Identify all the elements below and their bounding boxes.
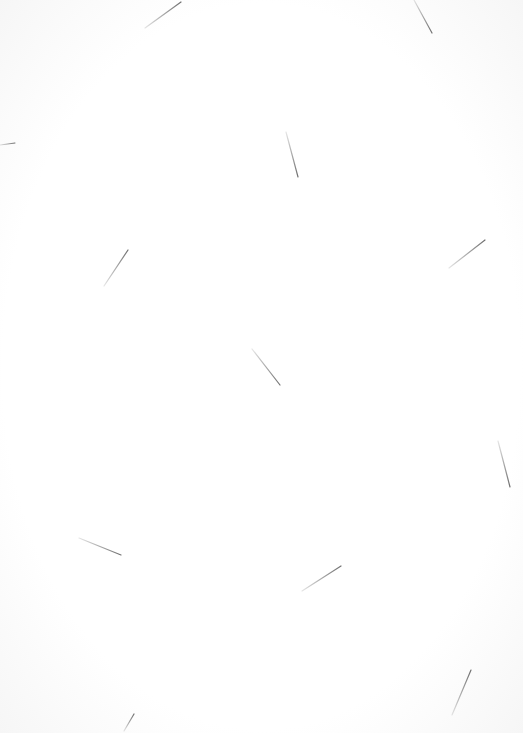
scratch-stroke: [79, 538, 121, 555]
scratch-stroke: [302, 566, 341, 591]
scratch-stroke: [449, 240, 485, 268]
scratch-stroke: [0, 143, 15, 145]
scratch-stroke: [286, 132, 298, 177]
scratch-stroke: [414, 0, 432, 33]
scratch-stroke: [452, 670, 471, 715]
scratch-stroke: [145, 2, 181, 28]
stroke-layer: [0, 0, 523, 733]
scratch-texture-canvas: [0, 0, 523, 733]
scratch-stroke: [498, 441, 510, 487]
scratch-stroke: [252, 349, 280, 385]
scratch-stroke: [124, 714, 134, 731]
stroke-group: [0, 0, 510, 731]
scratch-stroke: [104, 250, 128, 286]
